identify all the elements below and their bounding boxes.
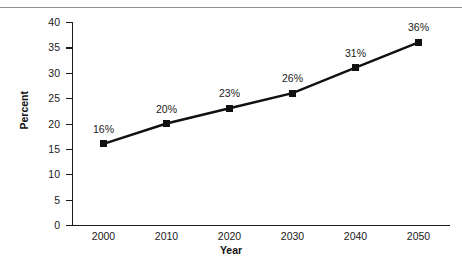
data-point-label: 16%: [74, 124, 134, 135]
data-point-marker: [226, 105, 233, 112]
data-point-label: 23%: [200, 88, 260, 99]
data-point-marker: [100, 140, 107, 147]
data-point-label: 31%: [326, 48, 386, 59]
data-point-marker: [289, 90, 296, 97]
y-axis-title: Percent: [19, 70, 30, 150]
chart-figure: 0510152025303540 20002010202020302040205…: [0, 0, 462, 266]
series-line: [0, 0, 462, 266]
x-axis-title: Year: [0, 245, 462, 256]
data-point-label: 20%: [137, 104, 197, 115]
data-point-marker: [415, 39, 422, 46]
data-point-label: 36%: [389, 22, 449, 33]
data-point-marker: [352, 64, 359, 71]
data-point-marker: [163, 120, 170, 127]
plot-area: 0510152025303540 20002010202020302040205…: [0, 0, 462, 266]
data-point-label: 26%: [263, 73, 323, 84]
